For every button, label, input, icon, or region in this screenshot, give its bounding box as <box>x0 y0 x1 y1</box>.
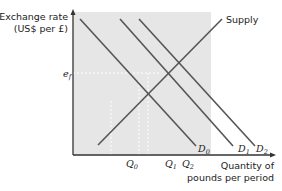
exchange-rate-diagram: Exchange rate (US$ per £) ef Supply D0 D… <box>0 0 282 191</box>
q2-label: Q2 <box>182 158 194 171</box>
q1-label: Q1 <box>165 158 177 171</box>
y-axis-label-line1: Exchange rate <box>0 11 68 22</box>
x-axis-label-line1: Quantity of <box>221 160 275 171</box>
d1-label: D1 <box>237 143 250 156</box>
equilibrium-rate-label: ef <box>63 68 73 81</box>
x-axis-arrow-icon <box>270 153 276 158</box>
y-axis-label-line2: (US$ per £) <box>14 23 68 34</box>
supply-label: Supply <box>226 14 259 25</box>
x-axis-label-line2: pounds per period <box>187 172 274 183</box>
d2-label: D2 <box>255 143 268 156</box>
q0-label: Q0 <box>126 158 138 171</box>
